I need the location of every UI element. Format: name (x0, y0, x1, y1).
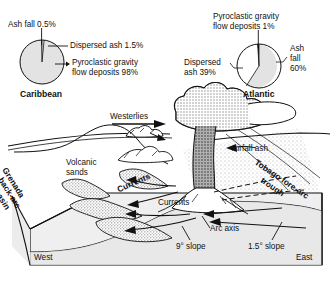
caribbean-pie-title: Caribbean (20, 90, 62, 99)
caribbean-ashfall-label: Ash fall 0.5% (8, 20, 56, 29)
diagram-artwork (0, 0, 335, 281)
slope-west-label: 9° slope (176, 242, 206, 251)
caribbean-pie (20, 28, 70, 84)
atlantic-dispersed-label-line1: Dispersed (184, 58, 221, 67)
caribbean-dispersed-ash-label: Dispersed ash 1.5% (70, 41, 143, 50)
slope-east-label: 1.5° slope (248, 242, 285, 251)
airfall-ash-label: Airfall ash (232, 144, 268, 153)
figure-canvas: Ash fall 0.5% Dispersed ash 1.5% Pyrocla… (0, 0, 335, 281)
caribbean-pgf-label-line1: Pyroclastic gravity (72, 58, 138, 67)
currents-label-lower: Currents (158, 198, 189, 207)
caribbean-pgf-label-line2: flow deposits 98% (72, 68, 138, 77)
atlantic-ashfall-label-line2: fall (290, 54, 300, 63)
atlantic-pgf-label-line1: Pyroclastic gravity (213, 12, 279, 21)
atlantic-ashfall-label-line3: 60% (290, 64, 306, 73)
atlantic-pie-title: Atlantic (243, 90, 275, 99)
atlantic-ashfall-label-line1: Ash (290, 44, 304, 53)
west-label: West (34, 253, 53, 262)
east-label: East (296, 253, 312, 262)
atlantic-dispersed-label-line2: ash 39% (184, 68, 216, 77)
arc-axis-label: Arc axis (210, 224, 239, 233)
volcanic-sands-label-line2: sands (66, 168, 88, 177)
westerlies-label: Westerlies (110, 112, 148, 121)
atlantic-pie (230, 30, 287, 88)
volcanic-sands-label-line1: Volcanic (66, 158, 97, 167)
atlantic-pgf-label-line2: flow deposits 1% (213, 22, 274, 31)
